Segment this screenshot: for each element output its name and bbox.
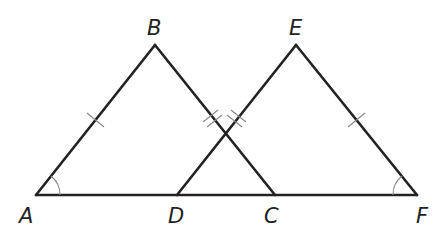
point-label-a: A xyxy=(17,204,33,228)
angle-mark-a xyxy=(51,176,60,195)
angle-mark-f xyxy=(393,176,402,195)
geometry-diagram: B E A D C F xyxy=(0,0,446,252)
tick-mark-ab xyxy=(87,113,104,127)
tick-mark-ef xyxy=(348,113,365,127)
point-label-c: C xyxy=(264,204,279,228)
point-label-d: D xyxy=(168,204,184,228)
segment-de xyxy=(177,45,296,195)
point-label-e: E xyxy=(289,16,303,40)
point-label-b: B xyxy=(147,16,161,40)
point-label-f: F xyxy=(416,204,429,228)
